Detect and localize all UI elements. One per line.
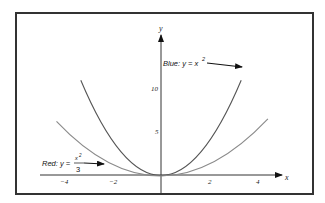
x-tick-label: 4 xyxy=(256,178,260,186)
x-axis-label: x xyxy=(284,173,289,182)
red-annotation-denominator: 3 xyxy=(76,165,80,174)
red-annotation-numerator-exponent: 2 xyxy=(78,153,82,158)
blue-annotation: Blue: y = x xyxy=(163,59,198,68)
y-tick-label: 10 xyxy=(151,85,159,93)
red-parabola-curve xyxy=(57,119,268,176)
x-tick-label: −4 xyxy=(60,178,69,186)
blue-annotation-exponent: 2 xyxy=(201,56,205,62)
red-annotation-numerator: x xyxy=(74,155,78,161)
x-tick-label: 2 xyxy=(208,178,212,186)
red-annotation-arrow xyxy=(84,163,104,164)
x-tick-label: −2 xyxy=(109,178,118,186)
parabola-chart: x y −4 −2 2 4 10 5 Blue: y = x 2 Red: y … xyxy=(0,0,325,203)
y-tick-label: 5 xyxy=(155,128,159,136)
y-axis-label: y xyxy=(158,24,163,33)
blue-annotation-arrow xyxy=(207,63,242,67)
red-annotation: Red: y = xyxy=(42,159,71,168)
